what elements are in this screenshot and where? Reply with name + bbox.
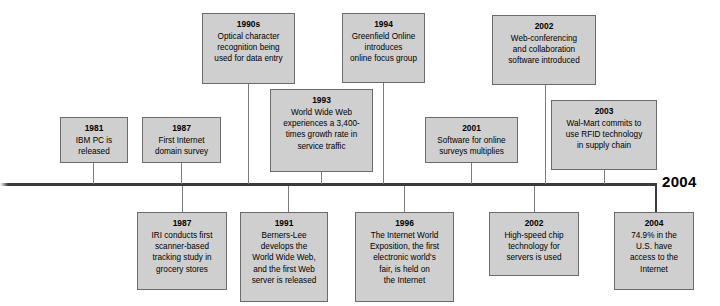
- connector-1993-world-wide-web-growth: [321, 172, 322, 184]
- connector-1987-iri-scanner-study: [182, 186, 183, 212]
- event-description: IBM PC is released: [64, 135, 124, 158]
- event-year: 2004: [618, 217, 690, 229]
- connector-1981-ibm-pc: [93, 163, 94, 184]
- connector-1991-berners-lee-www: [288, 186, 289, 212]
- event-year: 1996: [359, 217, 450, 229]
- connector-2002-high-speed-chip: [534, 186, 535, 212]
- event-description: 74.9% in the U.S. have access to the Int…: [618, 230, 690, 276]
- event-year: 2003: [555, 105, 653, 117]
- event-year: 2001: [429, 122, 514, 134]
- event-year: 1987: [146, 122, 217, 134]
- event-description: Software for online surveys multiplies: [429, 135, 514, 158]
- event-description: Greenfield Online introduces online focu…: [346, 31, 421, 65]
- event-description: Wal-Mart commits to use RFID technology …: [555, 118, 653, 152]
- timeline-axis: [6, 183, 657, 186]
- connector-1996-internet-world-exposition: [404, 186, 405, 212]
- event-box-1993-world-wide-web-growth[interactable]: 1993 World Wide Web experiences a 3,400-…: [270, 89, 373, 172]
- event-box-1991-berners-lee-www[interactable]: 1991 Berners-Lee develops the World Wide…: [240, 212, 328, 302]
- event-box-2004-us-internet-access[interactable]: 2004 74.9% in the U.S. have access to th…: [614, 212, 694, 290]
- event-year: 1993: [274, 94, 369, 106]
- event-description: World Wide Web experiences a 3,400- time…: [274, 107, 369, 153]
- event-description: First Internet domain survey: [146, 135, 217, 158]
- event-year: 2002: [496, 20, 592, 32]
- event-year: 1994: [346, 18, 421, 30]
- event-box-2002-high-speed-chip[interactable]: 2002 High-speed chip technology for serv…: [489, 212, 579, 276]
- timeline-axis-end-connector: [655, 183, 657, 214]
- connector-2003-walmart-rfid: [604, 170, 605, 184]
- event-year: 1991: [244, 217, 324, 229]
- timeline-diagram: 2004 1981 IBM PC is released 1987 First …: [0, 0, 720, 306]
- event-description: The Internet World Exposition, the first…: [359, 230, 450, 287]
- event-box-2001-survey-software-multiplies[interactable]: 2001 Software for online surveys multipl…: [425, 117, 518, 163]
- event-description: IRI conducts first scanner-based trackin…: [141, 230, 223, 276]
- event-description: High-speed chip technology for servers i…: [493, 230, 575, 264]
- event-year: 1990s: [206, 18, 291, 30]
- event-year: 1987: [141, 217, 223, 229]
- timeline-end-year-label: 2004: [662, 173, 697, 190]
- event-box-1994-greenfield-online[interactable]: 1994 Greenfield Online introduces online…: [342, 13, 425, 83]
- event-description: Web-conferencing and collaboration softw…: [496, 33, 592, 67]
- event-box-1987-first-internet-domain-survey[interactable]: 1987 First Internet domain survey: [142, 117, 221, 163]
- connector-2001-survey-software-multiplies: [471, 163, 472, 184]
- event-description: Optical character recognition being used…: [206, 31, 291, 65]
- connector-1994-greenfield-online: [383, 83, 384, 184]
- event-box-2002-web-conferencing[interactable]: 2002 Web-conferencing and collaboration …: [492, 15, 596, 85]
- event-box-1996-internet-world-exposition[interactable]: 1996 The Internet World Exposition, the …: [355, 212, 454, 302]
- connector-1990s-optical-character-recognition: [248, 84, 249, 184]
- event-box-1981-ibm-pc[interactable]: 1981 IBM PC is released: [60, 117, 128, 163]
- event-box-2003-walmart-rfid[interactable]: 2003 Wal-Mart commits to use RFID techno…: [551, 100, 657, 170]
- event-box-1987-iri-scanner-study[interactable]: 1987 IRI conducts first scanner-based tr…: [137, 212, 227, 290]
- event-year: 2002: [493, 217, 575, 229]
- event-year: 1981: [64, 122, 124, 134]
- connector-1987-first-internet-domain-survey: [181, 163, 182, 184]
- connector-2002-web-conferencing: [545, 85, 546, 184]
- event-description: Berners-Lee develops the World Wide Web,…: [244, 230, 324, 287]
- event-box-1990s-optical-character-recognition[interactable]: 1990s Optical character recognition bein…: [202, 13, 295, 84]
